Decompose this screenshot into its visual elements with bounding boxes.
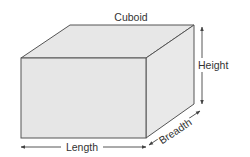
cuboid-front-face bbox=[21, 58, 146, 138]
cuboid-diagram: Cuboid Height Length Breadth bbox=[0, 0, 250, 157]
cuboid-title: Cuboid bbox=[114, 11, 147, 23]
length-label: Length bbox=[66, 141, 98, 153]
height-label: Height bbox=[198, 59, 228, 71]
